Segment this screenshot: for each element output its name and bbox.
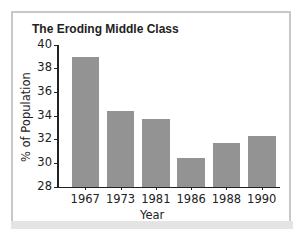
y-tick-label: 40: [28, 37, 52, 51]
bar-1988: [213, 143, 241, 187]
x-tick-label: 1973: [103, 192, 139, 206]
plot-area: 28303234363840196719731981198619881990: [0, 0, 301, 237]
x-tick-mark: [121, 187, 122, 190]
y-tick-label: 34: [28, 108, 52, 122]
y-tick-mark: [54, 187, 57, 188]
y-axis-line: [57, 45, 59, 187]
y-tick-label: 36: [28, 84, 52, 98]
bar-1981: [142, 119, 170, 186]
bar-1986: [177, 158, 205, 186]
y-tick-label: 32: [28, 131, 52, 145]
bar-1990: [248, 136, 276, 187]
x-tick-label: 1986: [173, 192, 209, 206]
x-tick-label: 1981: [138, 192, 174, 206]
x-tick-mark: [226, 187, 227, 190]
x-tick-label: 1990: [244, 192, 280, 206]
y-tick-mark: [54, 139, 57, 140]
y-tick-label: 30: [28, 155, 52, 169]
y-tick-mark: [54, 45, 57, 46]
y-tick-mark: [54, 68, 57, 69]
bar-1973: [107, 111, 135, 187]
bar-1967: [72, 57, 100, 187]
y-tick-label: 38: [28, 60, 52, 74]
x-axis-line: [57, 187, 280, 189]
y-tick-mark: [54, 92, 57, 93]
y-tick-mark: [54, 163, 57, 164]
y-tick-mark: [54, 116, 57, 117]
y-tick-label: 28: [28, 179, 52, 193]
x-tick-mark: [156, 187, 157, 190]
x-tick-mark: [191, 187, 192, 190]
x-tick-label: 1967: [67, 192, 103, 206]
x-tick-mark: [85, 187, 86, 190]
x-tick-mark: [262, 187, 263, 190]
x-tick-label: 1988: [208, 192, 244, 206]
